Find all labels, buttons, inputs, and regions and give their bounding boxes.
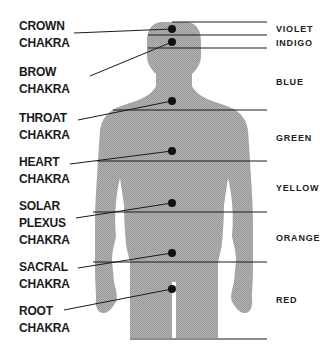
label-throat-chakra: THROAT CHAKRA (19, 110, 70, 144)
label-line: CHAKRA (19, 127, 70, 144)
solar-plexus-dot (168, 199, 176, 207)
label-heart-chakra: HEART CHAKRA (19, 154, 70, 188)
label-line: ROOT (19, 303, 70, 320)
label-line: SACRAL (19, 259, 70, 276)
brow-dot (168, 38, 176, 46)
color-orange: ORANGE (276, 233, 320, 243)
label-line: PLEXUS (19, 215, 70, 232)
color-indigo: INDIGO (276, 38, 313, 48)
label-line: CHAKRA (19, 232, 70, 249)
sacral-dot (168, 249, 176, 257)
label-brow-chakra: BROW CHAKRA (19, 64, 70, 98)
label-line: CHAKRA (19, 276, 70, 293)
label-line: CHAKRA (19, 35, 70, 52)
label-root-chakra: ROOT CHAKRA (19, 303, 70, 337)
label-sacral-chakra: SACRAL CHAKRA (19, 259, 70, 293)
color-green: GREEN (276, 133, 312, 143)
label-line: CHAKRA (19, 320, 70, 337)
label-solar-plexus-chakra: SOLAR PLEXUS CHAKRA (19, 198, 70, 249)
label-line: BROW (19, 64, 70, 81)
root-dot (168, 285, 176, 293)
label-line: HEART (19, 154, 70, 171)
color-yellow: YELLOW (276, 183, 319, 193)
label-line: CHAKRA (19, 81, 70, 98)
label-line: SOLAR (19, 198, 70, 215)
throat-dot (168, 97, 176, 105)
color-red: RED (276, 295, 297, 305)
label-crown-chakra: CROWN CHAKRA (19, 18, 70, 52)
color-violet: VIOLET (276, 24, 313, 34)
crown-dot (168, 25, 176, 33)
label-line: THROAT (19, 110, 70, 127)
heart-dot (168, 147, 176, 155)
label-line: CROWN (19, 18, 70, 35)
label-line: CHAKRA (19, 171, 70, 188)
color-blue: BLUE (276, 77, 304, 87)
